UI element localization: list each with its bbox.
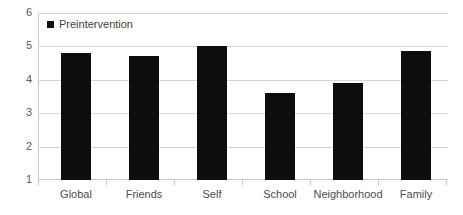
chart-legend: Preintervention <box>47 19 133 30</box>
x-tick-4 <box>310 180 311 185</box>
y-tick-label-1: 1 <box>6 174 32 185</box>
x-label-school: School <box>263 188 297 201</box>
x-label-neighborhood: Neighborhood <box>313 188 382 201</box>
x-tick-3 <box>242 180 243 185</box>
y-tick-label-5: 5 <box>6 40 32 51</box>
legend-square-marker-icon <box>47 21 54 28</box>
bar-global <box>61 53 91 180</box>
bar-school <box>265 93 295 180</box>
gridline-4 <box>38 80 448 81</box>
gridline-1 <box>38 179 448 180</box>
x-label-self: Self <box>203 188 222 201</box>
gridline-5 <box>38 46 448 47</box>
x-tick-0 <box>38 180 39 185</box>
x-label-global: Global <box>60 188 92 201</box>
y-tick-label-3: 3 <box>6 107 32 118</box>
bar-family <box>401 51 431 180</box>
gridline-6 <box>38 13 448 14</box>
x-tick-1 <box>106 180 107 185</box>
bar-neighborhood <box>333 83 363 180</box>
x-tick-5 <box>378 180 379 185</box>
plot-area <box>38 13 448 180</box>
x-label-friends: Friends <box>126 188 163 201</box>
y-tick-label-4: 4 <box>6 74 32 85</box>
gridline-2 <box>38 147 448 148</box>
x-label-family: Family <box>400 188 432 201</box>
y-tick-label-6: 6 <box>6 7 32 18</box>
gridline-3 <box>38 113 448 114</box>
legend-label-preintervention: Preintervention <box>59 19 133 30</box>
bar-self <box>197 46 227 180</box>
y-tick-label-2: 2 <box>6 141 32 152</box>
x-tick-2 <box>174 180 175 185</box>
bar-chart: 6 5 4 3 2 1 Global Friends Self School N… <box>0 0 463 215</box>
bar-friends <box>129 56 159 180</box>
y-axis-labels: 6 5 4 3 2 1 <box>0 13 32 180</box>
x-tick-6 <box>446 180 447 185</box>
